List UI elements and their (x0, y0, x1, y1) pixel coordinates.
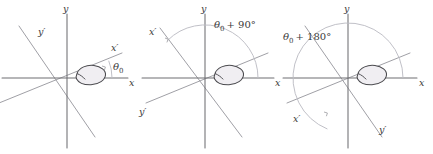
panel-2-principal-axes (142, 14, 274, 148)
planar-region-blob (357, 65, 386, 85)
panel-2-primed-axes (146, 28, 268, 137)
angle-subscript: 0 (289, 37, 293, 45)
angle-label: θ0 (113, 61, 124, 75)
y-axis-label: y (343, 3, 350, 14)
angle-suffix: + 90° (227, 19, 256, 30)
panel-theta0: x y x′ y′ θ0 (0, 0, 145, 154)
planar-region-blob (76, 65, 105, 85)
angle-subscript: 0 (220, 25, 224, 33)
x-prime-axis-label: x′ (111, 42, 119, 53)
rotated-axes-figure: x y x′ y′ θ0 (0, 0, 433, 154)
angle-label: θ0+ 90° (214, 19, 256, 33)
y-axis-label: y (200, 3, 207, 14)
x-prime-axis-label: x′ (149, 26, 157, 37)
x-axis-label: x (419, 77, 425, 88)
angle-suffix: + 180° (296, 31, 332, 42)
angle-subscript: 0 (119, 67, 123, 75)
theta-arc (109, 61, 112, 78)
panel-1-canvas: x y x′ y′ θ0 (0, 0, 145, 154)
panel-theta0-plus-90: x y x′ y′ θ0+ 90° (138, 0, 288, 154)
arc-tick-mark (324, 112, 327, 116)
y-axis-label: y (62, 3, 69, 14)
x-prime-axis-label: x′ (293, 113, 301, 124)
panel-3-canvas: x y x′ y′ θ0+ 180° (281, 0, 433, 154)
panel-1-principal-axes (2, 14, 128, 148)
panel-1-primed-axes (0, 26, 122, 137)
planar-region-blob (214, 65, 243, 85)
panel-theta0-plus-180: x y x′ y′ θ0+ 180° (281, 0, 433, 154)
y-prime-axis-label: y′ (138, 106, 147, 117)
panel-2-canvas: x y x′ y′ θ0+ 90° (138, 0, 288, 154)
y-prime-axis-label: y′ (378, 124, 387, 135)
y-prime-axis-label: y′ (37, 26, 46, 37)
theta-plus-90-arc (168, 25, 259, 78)
x-axis-label: x (129, 77, 135, 88)
angle-label: θ0+ 180° (283, 31, 331, 45)
